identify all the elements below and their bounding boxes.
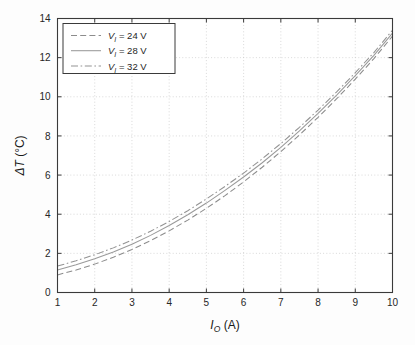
- figure-canvas: 1234567891002468101214IO (A)ΔT (°C)VI = …: [0, 0, 415, 345]
- xtick-label: 6: [241, 297, 247, 308]
- ytick-label: 4: [45, 209, 51, 220]
- ytick-label: 12: [39, 52, 51, 63]
- ytick-label: 10: [39, 91, 51, 102]
- xtick-label: 5: [204, 297, 210, 308]
- chart-plot: 1234567891002468101214IO (A)ΔT (°C)VI = …: [0, 0, 415, 345]
- ytick-label: 8: [45, 131, 51, 142]
- xtick-label: 2: [92, 297, 98, 308]
- legend: VI = 24 VVI = 28 VVI = 32 V: [63, 24, 175, 74]
- ytick-label: 0: [45, 287, 51, 298]
- xtick-label: 10: [387, 297, 399, 308]
- xtick-label: 8: [315, 297, 321, 308]
- ytick-label: 2: [45, 248, 51, 259]
- xtick-label: 4: [166, 297, 172, 308]
- x-axis-title: IO (A): [210, 318, 239, 334]
- ytick-label: 14: [39, 13, 51, 24]
- xtick-label: 9: [352, 297, 358, 308]
- xtick-label: 7: [278, 297, 284, 308]
- y-axis-title: ΔT (°C): [13, 135, 27, 176]
- xtick-label: 1: [55, 297, 61, 308]
- ytick-label: 6: [45, 170, 51, 181]
- xtick-label: 3: [129, 297, 135, 308]
